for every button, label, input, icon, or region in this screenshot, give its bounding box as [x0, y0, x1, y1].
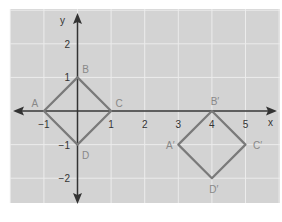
y-tick-label: −1 — [59, 140, 71, 151]
x-tick-label: 4 — [209, 119, 215, 130]
coordinate-plane-diagram: xy−11234521−1−2ABCDA′B′C′D′ — [0, 0, 282, 222]
vertex-label: B — [82, 64, 89, 75]
x-tick-label: 2 — [142, 119, 148, 130]
x-tick-label: 3 — [176, 119, 182, 130]
y-tick-label: −2 — [59, 173, 71, 184]
vertex-label: C′ — [253, 140, 262, 151]
x-axis-label: x — [268, 117, 273, 128]
vertex-label: B′ — [211, 96, 220, 107]
y-tick-label: 2 — [64, 39, 70, 50]
y-tick-label: 1 — [64, 72, 70, 83]
x-tick-label: 5 — [243, 119, 249, 130]
vertex-label: D′ — [209, 184, 218, 195]
x-tick-label: 1 — [108, 119, 114, 130]
vertex-label: A′ — [166, 140, 175, 151]
vertex-label: C — [115, 98, 122, 109]
vertex-label: D — [82, 150, 89, 161]
vertex-label: A — [32, 98, 39, 109]
y-axis-label: y — [60, 15, 65, 26]
x-tick-label: −1 — [38, 119, 50, 130]
